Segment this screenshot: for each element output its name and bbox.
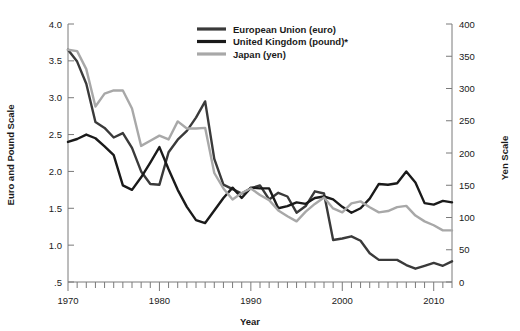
y-axis-tick-label: 1.0 — [49, 240, 62, 251]
y2-axis-tick-label: 300 — [459, 83, 475, 94]
y2-axis-tick-label: 50 — [459, 244, 470, 255]
x-axis-tick-label: 2010 — [423, 295, 444, 306]
y-axis-tick-label: 3.5 — [49, 55, 62, 66]
y-axis-tick-label: 3.0 — [49, 92, 62, 103]
right-axis-title: Yen Scale — [499, 136, 510, 180]
y2-axis-tick-label: 0 — [459, 277, 464, 288]
chart-canvas: .51.01.52.02.53.03.54.005010015020025030… — [0, 0, 520, 331]
legend-label: European Union (euro) — [233, 24, 336, 35]
y2-axis-tick-label: 100 — [459, 212, 475, 223]
legend-label: United Kingdom (pound)* — [233, 36, 348, 47]
x-axis-tick-label: 2000 — [332, 295, 353, 306]
y-axis-tick-label: 2.5 — [49, 129, 62, 140]
y2-axis-tick-label: 150 — [459, 180, 475, 191]
x-axis-tick-label: 1980 — [149, 295, 170, 306]
x-axis-title: Year — [240, 316, 260, 327]
currency-exchange-rate-chart: .51.01.52.02.53.03.54.005010015020025030… — [0, 0, 520, 331]
y2-axis-tick-label: 400 — [459, 19, 475, 30]
x-axis-tick-label: 1990 — [240, 295, 261, 306]
y2-axis-tick-label: 200 — [459, 148, 475, 159]
y2-axis-tick-label: 350 — [459, 51, 475, 62]
y-axis-tick-label: .5 — [54, 277, 62, 288]
x-axis-tick-label: 1970 — [57, 295, 78, 306]
left-axis-title: Euro and Pound Scale — [5, 105, 16, 206]
y2-axis-tick-label: 250 — [459, 115, 475, 126]
y-axis-tick-label: 2.0 — [49, 166, 62, 177]
legend-label: Japan (yen) — [233, 49, 286, 60]
y-axis-tick-label: 1.5 — [49, 203, 62, 214]
y-axis-tick-label: 4.0 — [49, 19, 62, 30]
